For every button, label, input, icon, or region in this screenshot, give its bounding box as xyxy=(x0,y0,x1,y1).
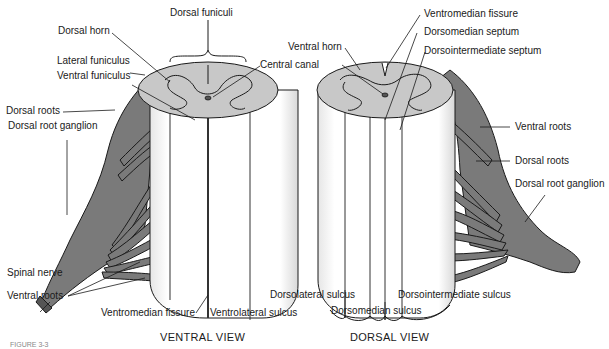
label-dorsal-horn: Dorsal horn xyxy=(58,25,110,37)
label-ventral-funiculus: Ventral funiculus xyxy=(57,70,130,82)
label-ventrolateral-sulcus: Ventrolateral sulcus xyxy=(210,307,297,319)
figure-caption: FIGURE 3-3 xyxy=(10,341,49,348)
label-dorsal-roots-left: Dorsal roots xyxy=(6,105,60,117)
label-lateral-funiculus: Lateral funiculus xyxy=(57,55,130,67)
label-ventral-roots-left: Ventral roots xyxy=(7,290,63,302)
label-central-canal: Central canal xyxy=(260,59,319,71)
label-dorsal-funiculi: Dorsal funiculi xyxy=(170,7,233,19)
spinal-cord-diagram: Dorsal funiculi Dorsal horn Lateral funi… xyxy=(0,0,609,349)
label-spinal-nerve: Spinal nerve xyxy=(7,267,63,279)
label-dorsal-roots-right: Dorsal roots xyxy=(515,155,569,167)
label-dorsolateral-sulcus: Dorsolateral sulcus xyxy=(270,289,355,301)
dorsal-view-artwork xyxy=(317,15,580,321)
label-dorsointermediate-sulcus: Dorsointermediate sulcus xyxy=(398,289,511,301)
label-ventral-roots-right: Ventral roots xyxy=(515,121,571,133)
label-dorsal-root-ganglion-left: Dorsal root ganglion xyxy=(8,120,98,132)
label-dorsal-root-ganglion-right: Dorsal root ganglion xyxy=(515,178,605,190)
ventral-view-title: VENTRAL VIEW xyxy=(160,331,245,343)
label-ventromedian-fissure-left: Ventromedian fissure xyxy=(101,307,195,319)
label-dorsomedian-sulcus: Dorsomedian sulcus xyxy=(331,305,422,317)
label-dorsomedian-septum: Dorsomedian septum xyxy=(424,26,519,38)
label-dorsointermediate-septum: Dorsointermediate septum xyxy=(424,45,541,57)
label-ventral-horn: Ventral horn xyxy=(288,41,342,53)
label-ventromedian-fissure-right: Ventromedian fissure xyxy=(424,8,518,20)
dorsal-view-title: DORSAL VIEW xyxy=(350,331,429,343)
